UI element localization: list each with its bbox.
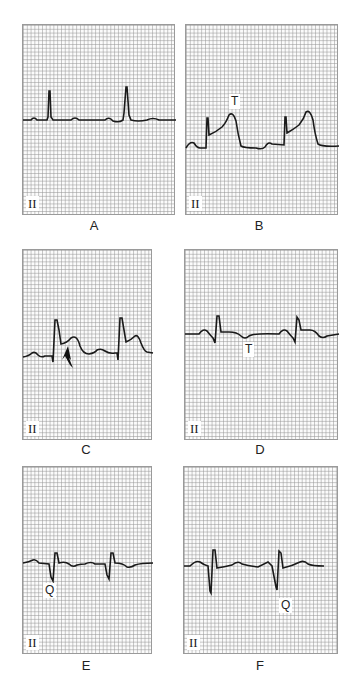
ecg-trace-b	[186, 25, 339, 216]
ecg-trace-a	[23, 25, 176, 216]
lead-label: II	[189, 196, 202, 211]
lead-label: II	[26, 196, 39, 211]
ecg-trace-e	[23, 467, 153, 655]
ecg-panel-e: Q II	[22, 466, 152, 654]
q-wave-label: Q	[279, 598, 292, 613]
ecg-panel-c: II	[22, 249, 152, 440]
lead-label: II	[188, 421, 201, 436]
panel-caption-c: C	[76, 442, 96, 457]
t-wave-label: T	[243, 342, 254, 357]
panel-caption-a: A	[84, 218, 104, 233]
panel-caption-b: B	[249, 218, 269, 233]
ecg-trace-f	[184, 467, 339, 655]
q-wave-label: Q	[43, 583, 56, 598]
ecg-trace-d	[185, 250, 339, 441]
panel-caption-d: D	[250, 442, 270, 457]
ecg-panel-b: T II	[185, 24, 338, 215]
panel-caption-e: E	[76, 658, 96, 673]
panel-caption-f: F	[250, 658, 270, 673]
arrow-icon	[62, 346, 73, 368]
ecg-panel-a: II	[22, 24, 175, 215]
ecg-trace-c	[23, 250, 153, 441]
ecg-panel-d: T II	[184, 249, 338, 440]
lead-label: II	[26, 421, 39, 436]
lead-label: II	[26, 635, 39, 650]
ecg-panel-f: Q II	[183, 466, 338, 654]
t-wave-label: T	[229, 94, 240, 109]
lead-label: II	[187, 635, 200, 650]
